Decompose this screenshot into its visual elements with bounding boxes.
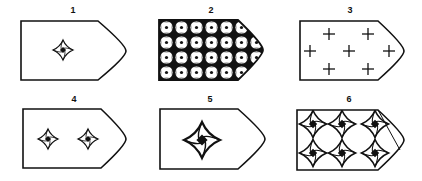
diagram-canvas [0, 0, 422, 181]
plus-icon [304, 45, 316, 57]
star-icon [53, 40, 73, 60]
panel-5-large-star [160, 109, 265, 169]
panel-2-dense-grid [159, 20, 269, 80]
pennant-shape-5 [160, 109, 265, 169]
star-icon [300, 140, 327, 167]
plus-icon [343, 45, 355, 57]
star-icon [184, 122, 220, 158]
panel-6-six-stars [297, 110, 404, 170]
panel-1-single-star [21, 21, 126, 80]
plus-icon [383, 45, 395, 57]
pennant-shape-1 [21, 21, 126, 80]
star-icon [329, 140, 356, 167]
star-icon [300, 111, 327, 138]
plus-icon [362, 63, 374, 75]
circle-grid-pattern [159, 20, 269, 80]
plus-icon [362, 28, 374, 40]
star-icon [38, 129, 58, 149]
plus-icon [323, 63, 335, 75]
panel-3-crosses [300, 21, 404, 80]
inner-diagonal [378, 110, 400, 150]
panel-4-two-stars [23, 109, 126, 168]
star-icon [362, 111, 389, 138]
star-icon [362, 140, 389, 167]
star-icon [329, 111, 356, 138]
plus-icon [323, 28, 335, 40]
star-icon [78, 129, 98, 149]
